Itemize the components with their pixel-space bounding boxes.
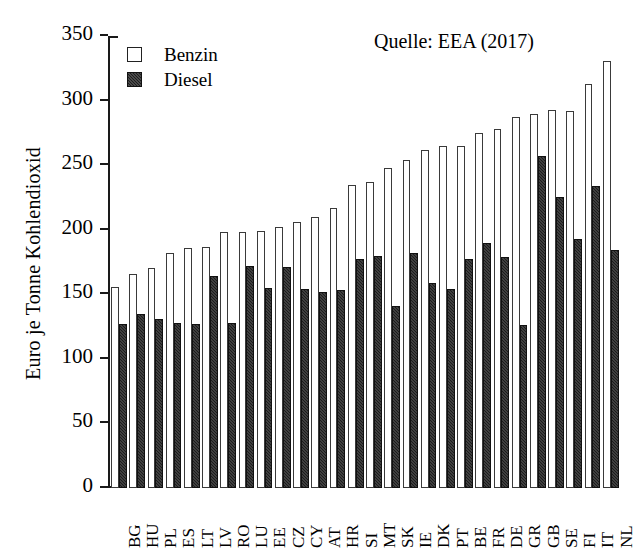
bar-benzin — [530, 114, 538, 489]
bar-benzin — [384, 168, 392, 488]
x-axis-tick-label: EE — [271, 492, 288, 548]
y-axis-tick-label: 50 — [72, 408, 93, 433]
bar-diesel — [192, 324, 200, 488]
bar-group — [111, 36, 129, 488]
bar-benzin — [311, 217, 319, 488]
bar-benzin — [220, 232, 228, 488]
bar-group — [384, 36, 402, 488]
bar-group — [548, 36, 566, 488]
bar-group — [239, 36, 257, 488]
bar-diesel — [556, 197, 564, 488]
bar-diesel — [574, 239, 582, 488]
bar-benzin — [257, 231, 265, 488]
y-axis-tick-label: 250 — [62, 150, 94, 175]
x-axis-tick-label: CZ — [290, 492, 307, 548]
bar-benzin — [129, 274, 137, 488]
bar-group — [202, 36, 220, 488]
x-axis-tick-label: DK — [435, 492, 452, 548]
x-axis-tick-label: GB — [545, 492, 562, 548]
x-axis-tick-label: FI — [581, 492, 598, 548]
bar-diesel — [155, 319, 163, 488]
y-axis-tick-label: 0 — [83, 473, 94, 498]
x-axis-tick-label: GR — [526, 492, 543, 548]
bar-group — [166, 36, 184, 488]
bar-group — [439, 36, 457, 488]
y-axis-tick: 100 — [100, 357, 108, 359]
bar-group — [184, 36, 202, 488]
bar-group — [475, 36, 493, 488]
bar-benzin — [403, 160, 411, 488]
y-axis-tick: 300 — [100, 99, 108, 101]
y-axis-tick-label: 150 — [62, 279, 94, 304]
bar-group — [421, 36, 439, 488]
x-axis-tick-labels: BGHUPLESLTLVROLUEECZCYATHRSIMTSKIEDKPTBE… — [110, 492, 622, 554]
y-axis-tick: 350 — [100, 34, 108, 36]
bar-benzin — [475, 133, 483, 488]
bar-diesel — [447, 289, 455, 488]
bar-diesel — [410, 253, 418, 488]
bar-benzin — [202, 247, 210, 488]
bar-diesel — [429, 283, 437, 488]
bar-group — [530, 36, 548, 488]
bar-benzin — [494, 129, 502, 488]
bar-benzin — [603, 61, 611, 488]
x-axis-tick-label: BG — [126, 492, 143, 548]
bar-benzin — [239, 232, 247, 488]
bar-diesel — [538, 156, 546, 488]
bar-diesel — [501, 257, 509, 488]
bar-group — [330, 36, 348, 488]
x-axis-tick-label: MT — [381, 492, 398, 548]
bar-group — [603, 36, 621, 488]
y-axis-title: Euro je Tonne Kohlendioxid — [22, 54, 45, 474]
bar-benzin — [566, 111, 574, 488]
bar-diesel — [137, 314, 145, 488]
bar-diesel — [465, 259, 473, 488]
bar-diesel — [210, 276, 218, 488]
x-axis-tick-label: DE — [508, 492, 525, 548]
y-axis-tick: 200 — [100, 228, 108, 230]
bar-series-container — [110, 36, 620, 488]
y-axis-tick-label: 350 — [62, 21, 94, 46]
bar-group — [585, 36, 603, 488]
x-axis-tick-label: LU — [253, 492, 270, 548]
bar-group — [366, 36, 384, 488]
bar-benzin — [366, 182, 374, 488]
bar-diesel — [483, 243, 491, 488]
x-axis-tick-label: RO — [235, 492, 252, 548]
bar-benzin — [512, 117, 520, 488]
bar-benzin — [293, 222, 301, 488]
x-axis-tick-label: PT — [454, 492, 471, 548]
y-axis-tick: 150 — [100, 292, 108, 294]
bar-benzin — [148, 268, 156, 488]
bar-benzin — [421, 150, 429, 488]
x-axis-tick-label: CY — [308, 492, 325, 548]
bar-benzin — [184, 248, 192, 488]
y-axis-tick-label: 200 — [62, 215, 94, 240]
bar-group — [494, 36, 512, 488]
bar-diesel — [319, 292, 327, 488]
bar-diesel — [228, 323, 236, 488]
bar-group — [293, 36, 311, 488]
bar-benzin — [166, 253, 174, 488]
bar-diesel — [337, 290, 345, 488]
bar-diesel — [174, 323, 182, 488]
bar-diesel — [356, 259, 364, 488]
bar-diesel — [246, 266, 254, 488]
bar-group — [457, 36, 475, 488]
bar-diesel — [265, 288, 273, 488]
bar-group — [311, 36, 329, 488]
bar-group — [403, 36, 421, 488]
bar-group — [512, 36, 530, 488]
bar-benzin — [585, 84, 593, 488]
x-axis-tick-label: AT — [326, 492, 343, 548]
x-axis-tick-label: SE — [563, 492, 580, 548]
x-axis-tick-label: LV — [217, 492, 234, 548]
x-axis-tick-label: HR — [344, 492, 361, 548]
bar-benzin — [457, 146, 465, 488]
y-axis-tick: 0 — [100, 486, 108, 488]
x-axis-tick-label: LT — [199, 492, 216, 548]
x-axis-tick-label: PL — [162, 492, 179, 548]
plot-area: 050100150200250300350 — [108, 36, 620, 488]
bar-diesel — [374, 256, 382, 488]
